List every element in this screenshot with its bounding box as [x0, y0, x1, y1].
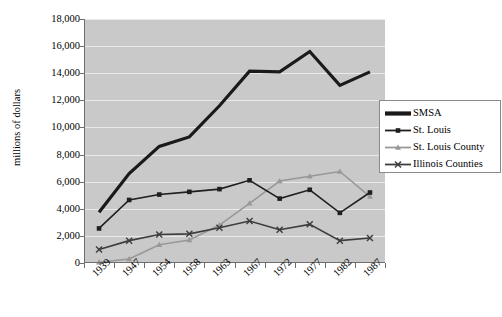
y-axis-tick	[79, 236, 84, 237]
y-axis-tick-label: 18,000	[18, 14, 80, 24]
legend-swatch-icon	[383, 157, 413, 170]
y-axis-tick	[79, 19, 84, 20]
x-axis-tick	[144, 263, 145, 268]
y-axis-tick-label: 10,000	[18, 122, 80, 132]
x-axis-tick	[204, 263, 205, 268]
legend-item-illinois-counties[interactable]: Illinois Counties	[383, 155, 500, 172]
y-axis-tick	[79, 209, 84, 210]
y-axis-tick	[79, 127, 84, 128]
line-chart: 02,0004,0006,0008,00010,00012,00014,0001…	[0, 0, 502, 317]
y-axis-tick-label: 2,000	[18, 231, 80, 241]
y-axis-tick-labels: 02,0004,0006,0008,00010,00012,00014,0001…	[12, 19, 80, 263]
x-axis-tick	[84, 263, 85, 268]
x-axis-tick	[385, 263, 386, 268]
legend-item-st-louis[interactable]: St. Louis	[383, 121, 500, 138]
y-axis-tick	[79, 46, 84, 47]
legend-item-smsa[interactable]: SMSA	[383, 104, 500, 121]
y-axis-tick	[79, 182, 84, 183]
y-axis-tick-label: 4,000	[18, 204, 80, 214]
y-axis-tick	[79, 100, 84, 101]
series-st-louis	[97, 178, 373, 231]
x-axis-tick	[325, 263, 326, 268]
y-axis-tick	[79, 73, 84, 74]
legend-swatch-icon	[383, 123, 413, 136]
x-axis-tick	[114, 263, 115, 268]
legend-item-label: St. Louis	[413, 124, 451, 136]
x-axis-tick	[235, 263, 236, 268]
y-axis-tick-label: 16,000	[18, 41, 80, 51]
y-axis-tick-label: 0	[18, 258, 80, 268]
y-axis-tick-label: 14,000	[18, 68, 80, 78]
series-st-louis-county	[96, 169, 373, 265]
x-axis-tick	[355, 263, 356, 268]
y-axis-tick-label: 12,000	[18, 95, 80, 105]
legend-item-label: SMSA	[413, 107, 442, 119]
legend-item-label: Illinois Counties	[413, 158, 483, 170]
y-axis-tick-label: 8,000	[18, 150, 80, 160]
series-layer	[84, 19, 385, 263]
x-axis-tick	[295, 263, 296, 268]
legend-item-label: St. Louis County	[413, 141, 484, 153]
legend-swatch-icon	[383, 106, 413, 119]
series-illinois-counties	[96, 218, 373, 252]
chart-legend: SMSASt. LouisSt. Louis CountyIllinois Co…	[379, 100, 501, 173]
x-axis-tick	[174, 263, 175, 268]
x-axis-tick	[265, 263, 266, 268]
series-smsa	[99, 52, 370, 213]
y-axis-tick-label: 6,000	[18, 177, 80, 187]
y-axis-tick	[79, 155, 84, 156]
legend-swatch-icon	[383, 140, 413, 153]
legend-item-st-louis-county[interactable]: St. Louis County	[383, 138, 500, 155]
y-axis-title: millions of dollars	[11, 68, 22, 188]
